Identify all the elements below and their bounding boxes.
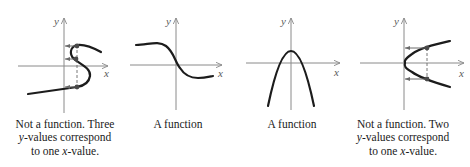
x-axis-label: x [333, 66, 339, 78]
intersection-point-bottom [425, 77, 430, 82]
caption-line: A function [118, 118, 238, 131]
panel-decreasing-sigmoid: y x [130, 15, 223, 110]
intersection-point-mid [74, 57, 79, 62]
y-axis-label: y [165, 15, 171, 27]
caption-text: -values correspond [24, 131, 111, 143]
intersection-point-top [425, 46, 430, 51]
x-axis-label: x [103, 67, 109, 79]
caption-s-curve: Not a function. Three y-values correspon… [5, 118, 125, 158]
caption-line: Not a function. Two [343, 118, 463, 131]
caption-sideways-parabola: Not a function. Two y-values correspond … [343, 118, 463, 158]
caption-decreasing-sigmoid: A function [118, 118, 238, 131]
y-axis-label: y [53, 15, 59, 27]
caption-text: -value. [405, 145, 437, 157]
caption-line: A function [232, 118, 352, 131]
caption-line: to one x-value. [5, 145, 125, 158]
y-axis-label: y [280, 15, 286, 27]
caption-text: to one [31, 145, 62, 157]
intersection-point-top [75, 44, 80, 49]
caption-line: y-values correspond [343, 131, 463, 144]
caption-text: -value. [67, 145, 99, 157]
panel-downward-parabola: y x [246, 15, 340, 110]
caption-text: -values correspond [362, 131, 449, 143]
caption-text: to one [369, 145, 400, 157]
x-axis-label: x [458, 67, 464, 79]
caption-downward-parabola: A function [232, 118, 352, 131]
sigmoid-curve [136, 43, 213, 78]
x-axis-label: x [217, 67, 223, 79]
panel-s-curve: y x [18, 15, 109, 113]
panel-sideways-parabola: y x [360, 15, 464, 110]
caption-line: Not a function. Three [5, 118, 125, 131]
caption-line: to one x-value. [343, 145, 463, 158]
caption-line: y-values correspond [5, 131, 125, 144]
y-axis-label: y [393, 15, 399, 27]
intersection-point-bottom [75, 85, 80, 90]
